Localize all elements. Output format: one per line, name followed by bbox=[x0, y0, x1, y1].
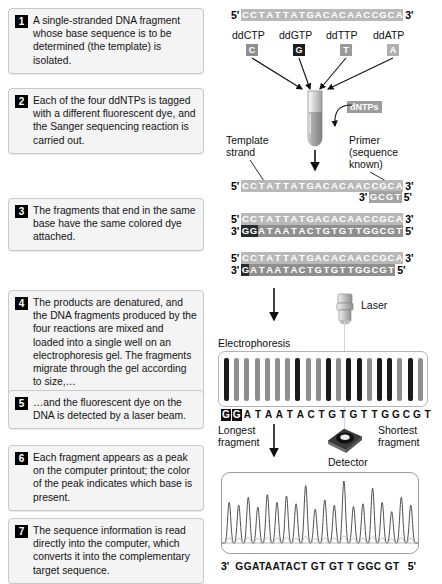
base-t: T bbox=[338, 264, 346, 276]
template-sequence-row: 5' CCTATTATGACACAACCGCA 3' bbox=[231, 9, 414, 21]
gel-band bbox=[255, 358, 260, 401]
base-t: T bbox=[298, 213, 306, 225]
gel-band bbox=[377, 358, 382, 401]
laser-icon bbox=[334, 293, 356, 331]
base-t: T bbox=[266, 225, 274, 237]
base-t: T bbox=[355, 225, 363, 237]
step-text: …and the fluorescent dye on the DNA is d… bbox=[33, 396, 197, 422]
primer-sequence: GCGT bbox=[369, 191, 401, 203]
base-a: A bbox=[290, 9, 298, 21]
base-a: A bbox=[266, 213, 274, 225]
base-c: C bbox=[363, 213, 371, 225]
base-c: C bbox=[249, 180, 257, 192]
three-prime-label: 3' bbox=[405, 213, 413, 225]
gel-band bbox=[306, 358, 311, 401]
base-t: T bbox=[347, 225, 355, 237]
base-a: A bbox=[330, 252, 338, 264]
base-c: C bbox=[338, 252, 346, 264]
product-duplex-b-bottom: 3' GATAATACTGTGTTGGCGT 5' bbox=[231, 264, 405, 276]
base-g: G bbox=[369, 191, 377, 203]
base-a: A bbox=[266, 9, 274, 21]
base-g: G bbox=[371, 225, 379, 237]
ddntp-arrows bbox=[218, 56, 442, 98]
readout-base-g: G bbox=[348, 409, 359, 421]
flow-arrow-to-chromatogram bbox=[267, 424, 281, 464]
readout-base-t: T bbox=[369, 409, 380, 421]
flow-arrow-to-gel bbox=[267, 288, 281, 328]
three-prime-label: 3' bbox=[359, 191, 367, 203]
base-t: T bbox=[258, 264, 266, 276]
base-a: A bbox=[290, 264, 298, 276]
base-t: T bbox=[306, 264, 314, 276]
chromatogram bbox=[221, 472, 419, 554]
longest-fragment-label-line2: fragment bbox=[218, 436, 259, 448]
base-c: C bbox=[298, 264, 306, 276]
readout-base-g: G bbox=[327, 409, 338, 421]
step-callout-2: 2 Each of the four ddNTPs is tagged with… bbox=[8, 88, 204, 154]
base-g: G bbox=[330, 264, 338, 276]
base-t: T bbox=[258, 252, 266, 264]
final-sequence-row: 3' GGATAATACT GT GT T GGC GT 5' bbox=[221, 560, 416, 572]
readout-base-a: A bbox=[263, 409, 274, 421]
base-c: C bbox=[363, 252, 371, 264]
base-t: T bbox=[290, 225, 298, 237]
flow-arrow-tube-to-duplex bbox=[308, 150, 322, 178]
base-a: A bbox=[355, 252, 363, 264]
base-a: A bbox=[355, 9, 363, 21]
gel-band bbox=[234, 358, 239, 401]
base-a: A bbox=[314, 9, 322, 21]
base-a: A bbox=[330, 9, 338, 21]
base-t: T bbox=[258, 9, 266, 21]
base-c: C bbox=[371, 9, 379, 21]
base-t: T bbox=[322, 264, 330, 276]
template-sequence: CCTATTATGACACAACCGCA bbox=[241, 252, 403, 264]
step-number: 2 bbox=[15, 95, 28, 108]
base-t: T bbox=[282, 213, 290, 225]
base-t: T bbox=[274, 180, 282, 192]
chromatogram-peak-trace bbox=[222, 481, 418, 543]
step-callout-3: 3 The fragments that end in the same bas… bbox=[8, 198, 204, 251]
base-t: T bbox=[347, 264, 355, 276]
gel-band bbox=[224, 358, 229, 401]
base-t: T bbox=[282, 180, 290, 192]
base-t: T bbox=[395, 225, 403, 237]
base-c: C bbox=[241, 9, 249, 21]
product-sequence: GATAATACTGTGTTGGCGT bbox=[241, 264, 395, 276]
step-number: 5 bbox=[15, 397, 28, 410]
readout-base-g: G bbox=[221, 409, 231, 421]
readout-base-a: A bbox=[295, 409, 306, 421]
base-c: C bbox=[322, 252, 330, 264]
base-t: T bbox=[258, 180, 266, 192]
readout-base-a: A bbox=[242, 409, 253, 421]
base-t: T bbox=[274, 213, 282, 225]
base-a: A bbox=[314, 252, 322, 264]
ddntp-label-c: ddCTP bbox=[232, 29, 265, 41]
base-t: T bbox=[282, 9, 290, 21]
base-g: G bbox=[249, 225, 257, 237]
base-a: A bbox=[274, 225, 282, 237]
readout-base-g: G bbox=[380, 409, 391, 421]
gel-band bbox=[357, 358, 362, 401]
gel-band bbox=[326, 358, 331, 401]
base-g: G bbox=[241, 225, 249, 237]
base-a: A bbox=[290, 180, 298, 192]
base-a: A bbox=[330, 213, 338, 225]
base-g: G bbox=[363, 264, 371, 276]
gel-band bbox=[316, 358, 321, 401]
product-duplex-b-top: 5' CCTATTATGACACAACCGCA 3' bbox=[231, 252, 414, 264]
base-c: C bbox=[338, 180, 346, 192]
readout-base-t: T bbox=[316, 409, 327, 421]
base-a: A bbox=[249, 264, 257, 276]
base-c: C bbox=[387, 252, 395, 264]
base-c: C bbox=[322, 180, 330, 192]
base-c: C bbox=[249, 252, 257, 264]
base-g: G bbox=[322, 225, 330, 237]
step-text: The products are denatured, and the DNA … bbox=[33, 296, 197, 388]
readout-base-t: T bbox=[422, 409, 433, 421]
base-g: G bbox=[306, 9, 314, 21]
base-a: A bbox=[355, 213, 363, 225]
base-g: G bbox=[355, 264, 363, 276]
ddntp-label-a: ddATP bbox=[373, 29, 404, 41]
template-sequence: CCTATTATGACACAACCGCA bbox=[241, 9, 403, 21]
base-t: T bbox=[314, 225, 322, 237]
